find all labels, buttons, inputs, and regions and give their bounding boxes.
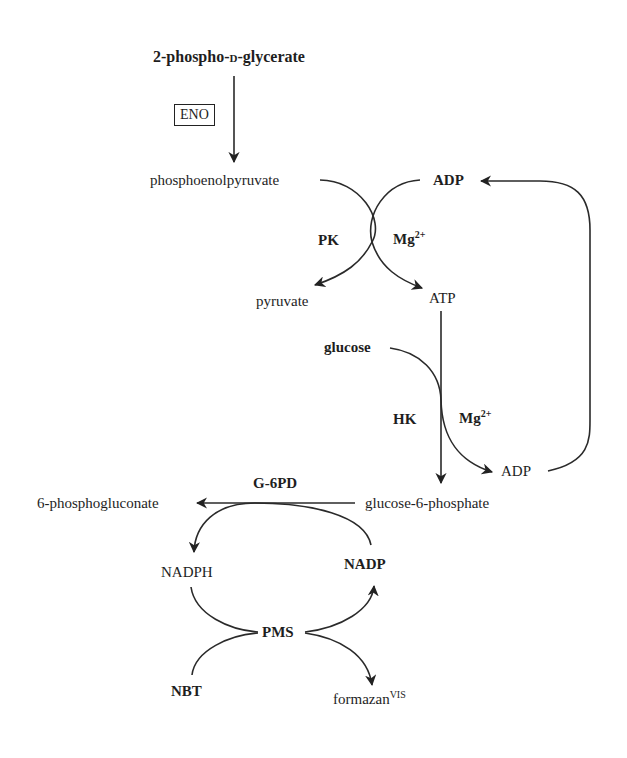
node-text: 2-phospho- [153,48,229,65]
superscript: 2+ [481,408,492,419]
nbt-to-formazan-arrow [192,633,372,685]
node-atp: ATP [429,291,456,306]
node-glucose-6-phosphate: glucose-6-phosphate [365,496,489,511]
node-pms: PMS [262,625,294,640]
superscript: VIS [390,689,406,700]
node-6-phosphogluconate: 6-phosphogluconate [37,496,159,511]
enzyme-g6pd: G-6PD [253,476,297,491]
cofactor-mg-2: Mg2+ [459,411,491,426]
node-text: Mg [459,410,481,426]
node-text: Mg [393,231,415,247]
node-nbt: NBT [171,684,202,699]
node-phosphoenolpyruvate: phosphoenolpyruvate [150,173,279,188]
node-text: -glycerate [237,48,305,65]
node-glucose: glucose [324,340,371,355]
node-adp-bottom: ADP [501,464,531,479]
nadp-to-nadph-arrow [194,503,371,552]
enzyme-eno: ENO [174,104,215,126]
node-formazan: formazanVIS [333,692,406,707]
node-nadph: NADPH [161,565,213,580]
node-2-phospho-d-glycerate: 2-phospho-d-glycerate [153,49,305,65]
superscript: 2+ [415,229,426,240]
node-adp-top: ADP [433,173,464,188]
adp-recycle-arrow [481,181,590,471]
pathway-arrows [0,0,627,758]
enzyme-hk: HK [393,412,416,427]
node-pyruvate: pyruvate [256,294,308,309]
node-nadp: NADP [344,557,386,572]
node-text: formazan [333,691,390,707]
cofactor-mg-1: Mg2+ [393,232,425,247]
enzyme-pk: PK [318,233,339,248]
